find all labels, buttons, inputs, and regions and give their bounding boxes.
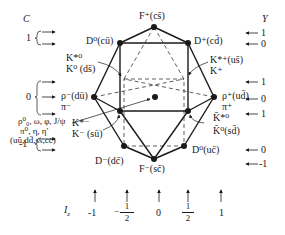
iz-value: 1: [219, 208, 224, 218]
y-value: 0: [261, 145, 266, 155]
label-k0bar: K̄⁰(sd̄): [213, 126, 240, 136]
iz-axis-title: Iz: [64, 205, 70, 219]
label-neutral-quark-content: (uū,dd̄,ss̄,cc̄): [10, 135, 56, 145]
y-value: 1: [261, 28, 266, 38]
label-d0-top: D⁰(cū): [86, 36, 113, 46]
c-value-0: 0: [26, 92, 31, 102]
c-value-1: 1: [26, 33, 31, 43]
label-rho-plus: ρ⁺(ud̄): [222, 91, 249, 101]
label-k-plus-star: K*⁺(us̄): [210, 55, 243, 65]
y-value: 0: [261, 39, 266, 49]
label-k-minus-star: K*⁻: [72, 118, 90, 128]
outer-polygon: [94, 27, 214, 159]
label-k-minus: K⁻ (sū): [72, 129, 103, 139]
label-pi-plus: π⁺: [222, 102, 232, 112]
label-k0-star: K*⁰: [66, 53, 82, 63]
label-f-plus: F⁺(cs̄): [139, 11, 165, 21]
label-d-minus: D⁻(dc̄): [95, 156, 124, 166]
iz-axis-arrows: [95, 190, 221, 202]
label-k0: K⁰ (ds̄): [66, 64, 95, 74]
label-d-plus: D⁺(cd̄): [194, 36, 223, 46]
c-axis-title: C: [23, 14, 30, 24]
y-value: 1: [261, 77, 266, 87]
y-axis-title: Y: [262, 14, 268, 24]
label-pi-minus: π⁻: [61, 102, 71, 112]
label-k-plus: K⁺: [210, 66, 223, 76]
iz-value-half: 12: [182, 202, 194, 223]
label-d0-bottom: D⁰(uc̄): [192, 145, 219, 155]
label-k0bar-star: K̄*⁰: [213, 113, 229, 123]
iz-value: -1: [88, 208, 96, 218]
label-rho-minus: ρ⁻(dū): [61, 91, 88, 101]
y-value: 0: [261, 94, 266, 104]
iz-value: 0: [156, 208, 161, 218]
y-value: 1: [261, 109, 266, 119]
label-f-minus: F⁻(sc̄): [139, 164, 165, 174]
y-value: -1: [259, 159, 267, 169]
iz-value-minus-half: −12: [120, 202, 134, 223]
label-neutral-vector: ρ⁰₀, ω, φ, J/ψ: [18, 116, 66, 126]
